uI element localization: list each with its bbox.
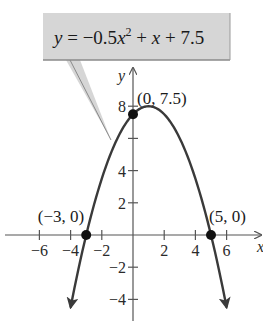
key-point-label: (5, 0) xyxy=(209,207,246,226)
axis-ticks: −6−4−2246−4−2248 xyxy=(31,98,231,308)
y-tick-label: 4 xyxy=(118,163,126,180)
x-tick-label: 4 xyxy=(191,242,199,259)
callout-tail xyxy=(66,60,111,140)
key-point-marker xyxy=(206,230,216,240)
key-point-marker xyxy=(81,230,91,240)
parabola-chart: y = −0.5x2 + x + 7.5 x y −6−4−2246−4−224… xyxy=(0,0,263,321)
key-point-label: (−3, 0) xyxy=(38,207,84,226)
x-tick-label: 6 xyxy=(223,242,231,259)
x-tick-label: −4 xyxy=(62,242,79,259)
y-tick-label: −2 xyxy=(109,259,126,276)
x-tick-label: 2 xyxy=(160,242,168,259)
y-tick-label: 8 xyxy=(118,98,126,115)
x-axis-label: x xyxy=(256,238,263,255)
y-tick-label: −4 xyxy=(109,291,126,308)
key-points: (0, 7.5)(−3, 0)(5, 0) xyxy=(38,89,246,240)
x-tick-label: −6 xyxy=(31,242,48,259)
parabola-curve xyxy=(71,106,227,307)
key-point-marker xyxy=(128,109,138,119)
key-point-label: (0, 7.5) xyxy=(137,89,187,108)
y-tick-label: 2 xyxy=(118,195,126,212)
equation-callout: y = −0.5x2 + x + 7.5 xyxy=(43,13,230,140)
y-axis-label: y xyxy=(116,67,126,85)
x-tick-label: −2 xyxy=(93,242,110,259)
